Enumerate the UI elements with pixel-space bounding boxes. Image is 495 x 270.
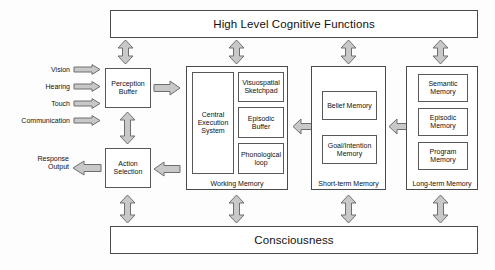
program-memory-label-line1: Program [430,148,457,156]
central-execution-system-label-line2: Execution [198,119,229,127]
connector-hlcf-to-perception [117,39,134,65]
response-output-arrow-icon [72,160,102,176]
action-selection-label-line2: Selection [114,168,143,176]
episodic-buffer-box: Episodic Buffer [238,107,284,138]
working-memory-label: Working Memory [187,180,287,187]
short-term-memory-container: Belief Memory Goal/Intention Memory Shor… [311,66,386,190]
response-output-label-line1: Response [12,155,69,163]
consciousness-banner: Consciousness [110,226,478,254]
action-selection-box: Action Selection [105,148,151,188]
connector-long-term-memory-to-consciousness [432,194,449,224]
goal-intention-memory-label-line1: Goal/Intention [328,142,372,150]
input-arrow-touch-icon [73,98,101,109]
goal-intention-memory-label-line2: Memory [337,150,362,158]
perception-buffer-label-line1: Perception [111,80,144,88]
central-execution-system-label-line3: System [201,127,224,135]
perception-buffer-box: Perception Buffer [105,68,151,108]
input-arrow-vision-icon [73,64,101,75]
working-memory-container: Central Execution System Visuospatial Sk… [186,66,288,190]
short-term-memory-label: Short-term Memory [312,180,385,187]
central-execution-system-label-line1: Central [202,111,225,119]
high-level-cognitive-functions-label: High Level Cognitive Functions [213,18,375,31]
perception-buffer-label-line2: Buffer [119,88,138,96]
semantic-memory-label-line1: Semantic [428,80,457,88]
visuospatial-sketchpad-box: Visuospatial Sketchpad [238,72,284,102]
high-level-cognitive-functions-banner: High Level Cognitive Functions [110,10,478,38]
belief-memory-label-line1: Belief Memory [327,102,372,110]
program-memory-label-line2: Memory [430,156,455,164]
cognitive-architecture-diagram: High Level Cognitive Functions Vision He… [0,0,495,270]
program-memory-box: Program Memory [418,142,468,170]
connector-short-term-memory-to-consciousness [340,194,357,224]
episodic-memory-label-line2: Memory [430,122,455,130]
semantic-memory-label-line2: Memory [430,88,455,96]
phonological-loop-box: Phonological loop [238,143,284,174]
input-label-hearing: Hearing [20,83,70,91]
connector-hlcf-to-long-term-memory [432,39,449,65]
phonological-loop-label-line2: loop [254,159,267,167]
input-label-vision: Vision [20,66,70,74]
input-label-touch: Touch [20,100,70,108]
visuospatial-sketchpad-label-line1: Visuospatial [242,79,280,87]
connector-action-selection-to-consciousness [119,194,136,224]
action-selection-label-line1: Action [118,160,137,168]
visuospatial-sketchpad-label-line2: Sketchpad [244,87,277,95]
connector-hlcf-to-working-memory [228,39,245,65]
belief-memory-box: Belief Memory [322,91,377,120]
central-execution-system-box: Central Execution System [192,72,234,174]
response-output-label: Response Output [12,155,69,171]
consciousness-label: Consciousness [254,234,333,247]
connector-perception-to-action-selection [119,111,136,145]
input-arrow-hearing-icon [73,81,101,92]
long-term-memory-label: Long-term Memory [407,180,477,187]
episodic-memory-label-line1: Episodic [430,114,456,122]
connector-working-memory-to-action-selection [153,161,181,177]
input-arrow-communication-icon [73,115,101,126]
phonological-loop-label-line1: Phonological [241,151,281,159]
episodic-memory-box: Episodic Memory [418,108,468,136]
goal-intention-memory-box: Goal/Intention Memory [322,135,377,164]
long-term-memory-container: Semantic Memory Episodic Memory Program … [406,66,478,190]
episodic-buffer-label-line1: Episodic [248,115,274,123]
connector-perception-to-working-memory [153,80,181,96]
episodic-buffer-label-line2: Buffer [252,123,271,131]
input-label-communication: Communication [4,117,70,125]
connector-working-memory-to-consciousness [228,194,245,224]
response-output-label-line2: Output [12,163,69,171]
semantic-memory-box: Semantic Memory [418,74,468,102]
connector-hlcf-to-short-term-memory [340,39,357,65]
